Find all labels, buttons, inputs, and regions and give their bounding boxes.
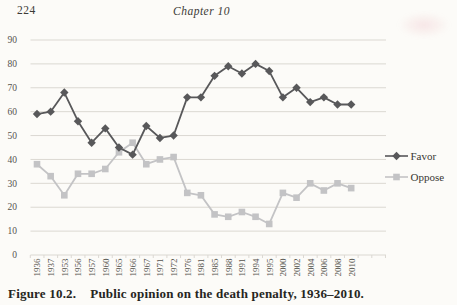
x-axis-tick-label: 1995 (265, 258, 275, 277)
data-point-favor-1972 (169, 131, 177, 139)
legend-marker-favor (392, 152, 400, 160)
x-axis-tick-label: 1937 (46, 258, 56, 277)
data-point-oppose-1991 (239, 209, 246, 216)
data-point-oppose-1972 (170, 154, 177, 161)
death-penalty-line-chart: 0102030405060708090193619371953195619571… (0, 0, 457, 305)
data-point-favor-2006 (320, 93, 328, 101)
x-axis-tick-label: 2010 (347, 258, 357, 277)
x-axis-tick-label: 1960 (101, 258, 111, 277)
y-axis-tick-label: 40 (8, 155, 18, 165)
x-axis-tick-label: 2006 (319, 258, 329, 277)
data-point-favor-2008 (333, 100, 341, 108)
book-page: 224 Chapter 10 0102030405060708090193619… (0, 0, 457, 305)
data-point-favor-1976 (183, 93, 191, 101)
y-axis-tick-label: 20 (8, 202, 18, 212)
x-axis-tick-label: 2008 (333, 258, 343, 277)
legend-label-oppose: Oppose (411, 171, 445, 183)
data-point-oppose-1976 (184, 190, 191, 197)
x-axis-tick-label: 1985 (210, 258, 220, 277)
y-axis-tick-label: 90 (8, 35, 18, 45)
data-point-favor-1995 (265, 67, 273, 75)
data-point-favor-1966 (128, 150, 136, 158)
x-axis-tick-label: 1966 (128, 258, 138, 277)
data-point-favor-1936 (33, 110, 41, 118)
data-point-oppose-2002 (293, 194, 300, 201)
data-point-oppose-1994 (252, 213, 259, 220)
legend-label-favor: Favor (411, 150, 437, 162)
x-axis-tick-label: 1967 (142, 258, 152, 277)
x-axis-tick-label: 1991 (237, 259, 247, 277)
data-point-oppose-1960 (102, 166, 109, 173)
y-axis-tick-label: 30 (8, 179, 18, 189)
legend-marker-oppose (393, 174, 400, 181)
x-axis-tick-label: 1988 (224, 258, 234, 277)
data-point-oppose-1956 (75, 170, 82, 177)
y-axis-tick-label: 80 (8, 59, 18, 69)
y-axis-tick-label: 0 (12, 250, 17, 260)
data-point-oppose-2006 (321, 187, 328, 194)
x-axis-tick-label: 1953 (60, 258, 70, 277)
data-point-oppose-1981 (198, 192, 205, 199)
data-point-oppose-2010 (348, 185, 355, 192)
figure-caption: Figure 10.2.Public opinion on the death … (8, 286, 448, 302)
x-axis-tick-label: 1936 (32, 258, 42, 277)
x-axis-tick-label: 2004 (306, 258, 316, 277)
y-axis-tick-label: 70 (8, 83, 18, 93)
x-axis-tick-label: 1956 (73, 258, 83, 277)
x-axis-tick-label: 1957 (87, 258, 97, 277)
x-axis-tick-label: 1965 (114, 258, 124, 277)
figure-caption-label: Figure 10.2. (8, 286, 76, 301)
y-axis-tick-label: 10 (8, 226, 18, 236)
data-point-oppose-1953 (61, 192, 68, 199)
data-point-oppose-1988 (225, 213, 232, 220)
data-point-favor-2010 (347, 100, 355, 108)
y-axis-tick-label: 60 (8, 107, 18, 117)
data-point-oppose-1971 (157, 156, 164, 163)
data-point-oppose-1985 (211, 211, 218, 218)
data-point-oppose-1966 (129, 139, 136, 146)
x-axis-tick-label: 1981 (196, 259, 206, 277)
x-axis-tick-label: 1971 (155, 259, 165, 277)
data-point-oppose-2004 (307, 180, 314, 187)
data-point-oppose-2008 (334, 180, 341, 187)
data-point-oppose-2000 (280, 190, 287, 197)
y-axis-tick-label: 50 (8, 131, 18, 141)
data-point-oppose-1995 (266, 221, 273, 228)
x-axis-tick-label: 2002 (292, 259, 302, 277)
data-point-favor-1956 (74, 117, 82, 125)
data-point-favor-1981 (197, 93, 205, 101)
data-point-oppose-1937 (47, 173, 54, 180)
x-axis-tick-label: 1976 (183, 258, 193, 277)
figure-caption-text: Public opinion on the death penalty, 193… (90, 286, 364, 301)
series-line-favor (37, 64, 351, 155)
data-point-oppose-1936 (34, 161, 41, 168)
x-axis-tick-label: 1994 (251, 258, 261, 277)
data-point-oppose-1957 (88, 170, 95, 177)
x-axis-tick-label: 2000 (278, 258, 288, 277)
x-axis-tick-label: 1972 (169, 259, 179, 277)
data-point-oppose-1967 (143, 161, 150, 168)
